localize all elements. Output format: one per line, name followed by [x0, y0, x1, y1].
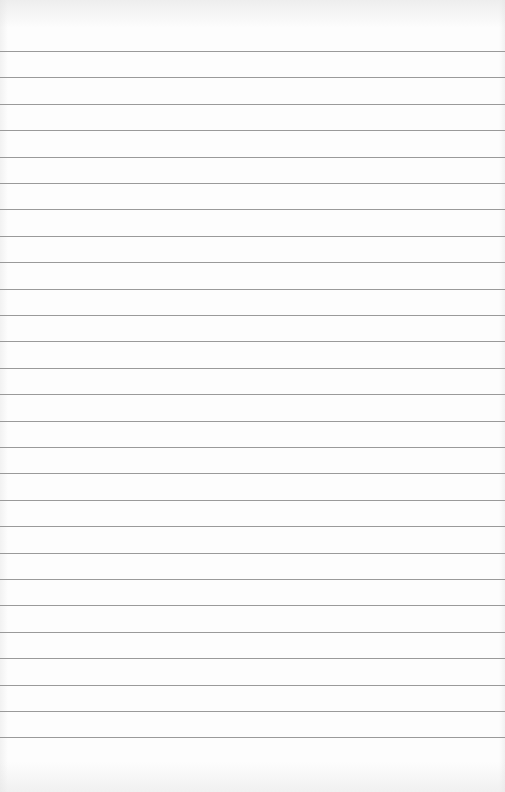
ruled-line [0, 711, 505, 712]
ruled-line [0, 315, 505, 316]
lined-paper-sheet [0, 0, 505, 792]
ruled-line [0, 130, 505, 131]
ruled-line [0, 51, 505, 52]
ruled-line [0, 209, 505, 210]
ruled-line [0, 526, 505, 527]
ruled-line [0, 77, 505, 78]
ruled-line [0, 262, 505, 263]
ruled-line [0, 236, 505, 237]
ruled-line [0, 685, 505, 686]
ruled-line [0, 183, 505, 184]
ruled-line [0, 447, 505, 448]
ruled-line [0, 658, 505, 659]
ruled-line [0, 421, 505, 422]
ruled-line [0, 368, 505, 369]
ruled-line [0, 289, 505, 290]
ruled-line [0, 341, 505, 342]
ruled-line [0, 473, 505, 474]
ruled-line [0, 104, 505, 105]
ruled-line [0, 632, 505, 633]
ruled-line [0, 605, 505, 606]
ruled-line [0, 157, 505, 158]
ruled-line [0, 553, 505, 554]
ruled-line [0, 579, 505, 580]
ruled-line [0, 500, 505, 501]
ruled-line [0, 737, 505, 738]
ruled-line [0, 394, 505, 395]
